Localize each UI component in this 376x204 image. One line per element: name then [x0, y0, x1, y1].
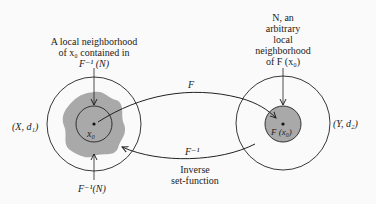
fx0-label: F (x₀): [271, 127, 292, 138]
x0-point: [92, 122, 95, 125]
x0-label: x₀: [87, 128, 95, 139]
right-neighborhood-label: N, an arbitrary local neighborhood of F …: [243, 12, 323, 67]
forward-map-arrow: [98, 92, 276, 122]
inverse-map-label: F⁻¹: [185, 146, 199, 157]
right-space-label: (Y, d₂): [333, 118, 358, 129]
left-space-label: (X, d₁): [12, 121, 38, 132]
preimage-label: F⁻¹(N): [78, 183, 106, 194]
left-neighborhood-label: A local neighborhood of x₀ contained in …: [42, 36, 146, 69]
forward-map-label: F: [188, 79, 194, 90]
fx0-point: [281, 122, 284, 125]
inverse-map-caption: Inverse set-function: [160, 164, 230, 186]
